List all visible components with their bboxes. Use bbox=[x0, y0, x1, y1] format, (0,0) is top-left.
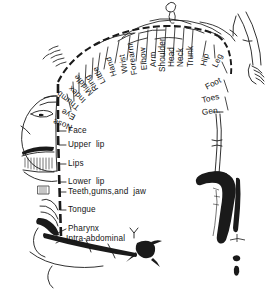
row-label-upper-lip: Upper lip bbox=[68, 141, 105, 149]
row-label-intra-abdominal: Intra-abdominal bbox=[66, 235, 125, 243]
arc-label-head: Head bbox=[168, 46, 176, 66]
bent-leg-silhouette bbox=[196, 171, 245, 275]
row-label-teeth-gums-jaw: Teeth,gums,and jaw bbox=[68, 188, 146, 196]
arc-label-arm: Arm bbox=[149, 51, 158, 67]
row-label-face: Face bbox=[68, 127, 87, 135]
arc-label-trunk: Trunk bbox=[186, 45, 194, 66]
row-label-tongue: Tongue bbox=[68, 206, 96, 214]
detached-arm-figure bbox=[230, 12, 264, 84]
homunculus-diagram: Hip Leg Foot Toes Gen. Trunk Neck Head S… bbox=[0, 0, 272, 290]
arc-label-neck: Neck bbox=[177, 47, 185, 66]
arc-label-shoulder: Shoulder bbox=[159, 38, 167, 72]
arc-label-elbow: Elbow bbox=[138, 46, 148, 70]
enlarged-face bbox=[21, 96, 57, 194]
detached-leg-figure bbox=[210, 112, 228, 178]
row-label-lower-lip: Lower lip bbox=[68, 178, 105, 186]
row-label-leaders bbox=[56, 131, 66, 243]
tongue-pharynx-region bbox=[30, 199, 162, 288]
row-label-pharynx: Pharynx bbox=[68, 225, 99, 233]
homunculus-artwork bbox=[0, 0, 272, 290]
row-label-lips: Lips bbox=[68, 160, 84, 168]
